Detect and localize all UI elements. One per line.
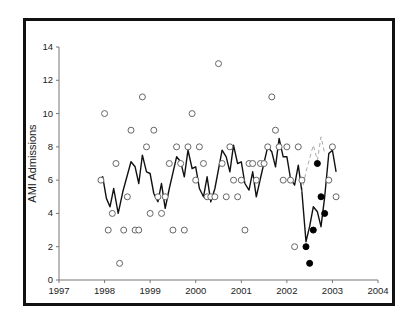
x-tick-label: 2003: [322, 285, 343, 296]
open-data-point: [219, 161, 225, 167]
open-data-point: [250, 161, 256, 167]
open-data-point: [326, 177, 332, 183]
trend-line: [101, 139, 336, 242]
open-data-point: [117, 260, 123, 266]
open-data-point: [272, 127, 278, 133]
open-data-point: [136, 227, 142, 233]
x-tick-label: 1997: [48, 285, 69, 296]
open-data-point: [147, 210, 153, 216]
y-axis-label: AMI Admissions: [26, 124, 38, 203]
open-data-point: [185, 144, 191, 150]
open-data-point: [284, 144, 290, 150]
open-data-point: [124, 194, 130, 200]
y-tick-label: 8: [48, 141, 53, 152]
open-data-point: [181, 227, 187, 233]
x-tick-label: 1998: [94, 285, 115, 296]
scatter-chart: 1997199819992000200120022003200402468101…: [0, 0, 415, 324]
open-data-point: [227, 144, 233, 150]
expected-line: [302, 137, 325, 192]
open-data-point: [170, 227, 176, 233]
y-tick-label: 12: [42, 74, 53, 85]
open-data-point: [196, 144, 202, 150]
x-tick-label: 2001: [231, 285, 252, 296]
open-data-point: [109, 210, 115, 216]
x-tick-label: 2002: [276, 285, 297, 296]
open-data-point: [212, 194, 218, 200]
open-data-point: [223, 194, 229, 200]
open-data-point: [242, 227, 248, 233]
open-data-point: [292, 244, 298, 250]
open-data-point: [151, 127, 157, 133]
open-data-point: [269, 94, 275, 100]
open-data-point: [299, 177, 305, 183]
filled-data-point: [318, 194, 324, 200]
open-data-point: [265, 144, 271, 150]
open-data-point: [193, 177, 199, 183]
open-data-point: [166, 161, 172, 167]
filled-data-point: [310, 227, 316, 233]
open-data-point: [200, 161, 206, 167]
open-data-point: [235, 194, 241, 200]
open-data-point: [216, 61, 222, 67]
y-tick-label: 14: [42, 41, 53, 52]
x-tick-label: 2000: [185, 285, 206, 296]
open-data-point: [139, 94, 145, 100]
open-data-point: [238, 177, 244, 183]
y-tick-label: 4: [48, 207, 53, 218]
open-data-point: [162, 194, 168, 200]
open-data-point: [295, 144, 301, 150]
open-data-point: [113, 161, 119, 167]
open-data-point: [128, 127, 134, 133]
x-tick-label: 2004: [367, 285, 388, 296]
y-tick-label: 0: [48, 274, 53, 285]
open-data-point: [105, 227, 111, 233]
open-data-point: [121, 227, 127, 233]
open-data-point: [98, 177, 104, 183]
open-data-point: [253, 177, 259, 183]
open-data-point: [159, 210, 165, 216]
open-data-point: [276, 144, 282, 150]
open-data-point: [261, 161, 267, 167]
open-data-point: [155, 194, 161, 200]
open-data-point: [189, 111, 195, 117]
y-tick-label: 2: [48, 241, 53, 252]
open-data-point: [143, 144, 149, 150]
open-data-point: [288, 177, 294, 183]
filled-data-point: [303, 244, 309, 250]
filled-data-point: [314, 161, 320, 167]
open-data-point: [102, 111, 108, 117]
open-data-point: [231, 177, 237, 183]
open-data-point: [280, 177, 286, 183]
y-tick-label: 10: [42, 108, 53, 119]
open-data-point: [329, 144, 335, 150]
y-tick-label: 6: [48, 174, 53, 185]
x-tick-label: 1999: [140, 285, 161, 296]
open-data-point: [333, 194, 339, 200]
filled-data-point: [322, 210, 328, 216]
filled-data-point: [307, 260, 313, 266]
open-data-point: [178, 161, 184, 167]
open-data-point: [174, 144, 180, 150]
